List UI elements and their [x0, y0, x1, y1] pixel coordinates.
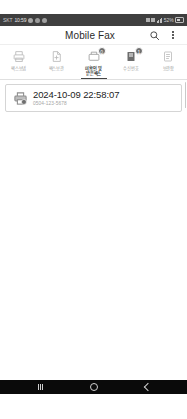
- toolbar-item-inbox[interactable]: 1 수신번호: [112, 45, 149, 79]
- letterbox-bottom: [0, 406, 187, 419]
- wifi-icon: [146, 18, 150, 22]
- status-bar-right: 52%: [146, 17, 184, 23]
- toolbar-item-label: 보관함: [163, 66, 174, 71]
- battery-percent-label: 52%: [164, 18, 174, 23]
- recents-button[interactable]: [31, 380, 51, 394]
- android-nav-bar: [0, 380, 187, 394]
- toolbar-item-received[interactable]: 0 미확인 및 받은팩스: [75, 45, 112, 79]
- app-bar: Mobile Fax: [0, 26, 187, 44]
- list-item-text: 2024-10-09 22:58:07 0504-123-5678: [33, 89, 119, 107]
- carrier-label: SKT: [3, 18, 12, 23]
- status-bar-left: SKT 10:59: [3, 18, 47, 23]
- alarm-icon: [151, 18, 155, 22]
- toolbar-item-label: 수신번호: [123, 66, 138, 71]
- toolbar-badge: 0: [98, 47, 106, 55]
- letterbox-top: [0, 0, 187, 14]
- status-bar: SKT 10:59 52%: [0, 14, 187, 26]
- toolbar-item-label: 팩스보관: [49, 66, 64, 71]
- toolbar-item-label: 팩스보냄: [11, 66, 26, 71]
- search-icon[interactable]: [148, 29, 160, 41]
- toolbar-badge: 1: [135, 47, 143, 55]
- selected-indicator: [81, 78, 107, 80]
- toolbar-item-send[interactable]: 팩스보냄: [0, 45, 37, 79]
- recents-icon: [38, 384, 43, 390]
- fax-toolbar: 팩스보냄 팩스보관: [0, 44, 187, 80]
- sync-icon: [28, 18, 33, 23]
- fax-number: 0504-123-5678: [33, 100, 119, 107]
- app-bar-actions: [148, 29, 181, 41]
- back-icon: [143, 383, 151, 391]
- status-time: 10:59: [14, 18, 26, 23]
- battery-icon: [175, 17, 184, 23]
- toolbar-item-label: 미확인 및 받은팩스: [85, 66, 101, 76]
- device-frame: SKT 10:59 52% Mobile Fax: [0, 0, 187, 419]
- back-button[interactable]: [137, 380, 157, 394]
- phone-screen: SKT 10:59 52% Mobile Fax: [0, 14, 187, 406]
- fax-folder-icon: [46, 48, 66, 65]
- home-button[interactable]: [84, 380, 104, 394]
- fax-send-icon: [9, 48, 29, 65]
- fax-list: 2024-10-09 22:58:07 0504-123-5678: [0, 80, 187, 380]
- notification-icon: [42, 18, 47, 23]
- fax-timestamp: 2024-10-09 22:58:07: [33, 89, 119, 100]
- fax-received-icon: 0: [84, 48, 104, 65]
- list-item[interactable]: 2024-10-09 22:58:07 0504-123-5678: [5, 84, 182, 112]
- toolbar-item-archive[interactable]: 보관함: [150, 45, 187, 79]
- kebab-menu-icon[interactable]: [167, 29, 179, 41]
- page-title: Mobile Fax: [6, 30, 148, 41]
- list-scrollbar[interactable]: [185, 82, 187, 108]
- fax-document-icon: [12, 90, 28, 106]
- fax-inbox-icon: 1: [121, 48, 141, 65]
- toolbar-item-folder[interactable]: 팩스보관: [37, 45, 74, 79]
- signal-icon: [157, 18, 163, 23]
- fax-archive-icon: [158, 48, 178, 65]
- home-icon: [90, 383, 98, 391]
- cloud-icon: [35, 18, 40, 23]
